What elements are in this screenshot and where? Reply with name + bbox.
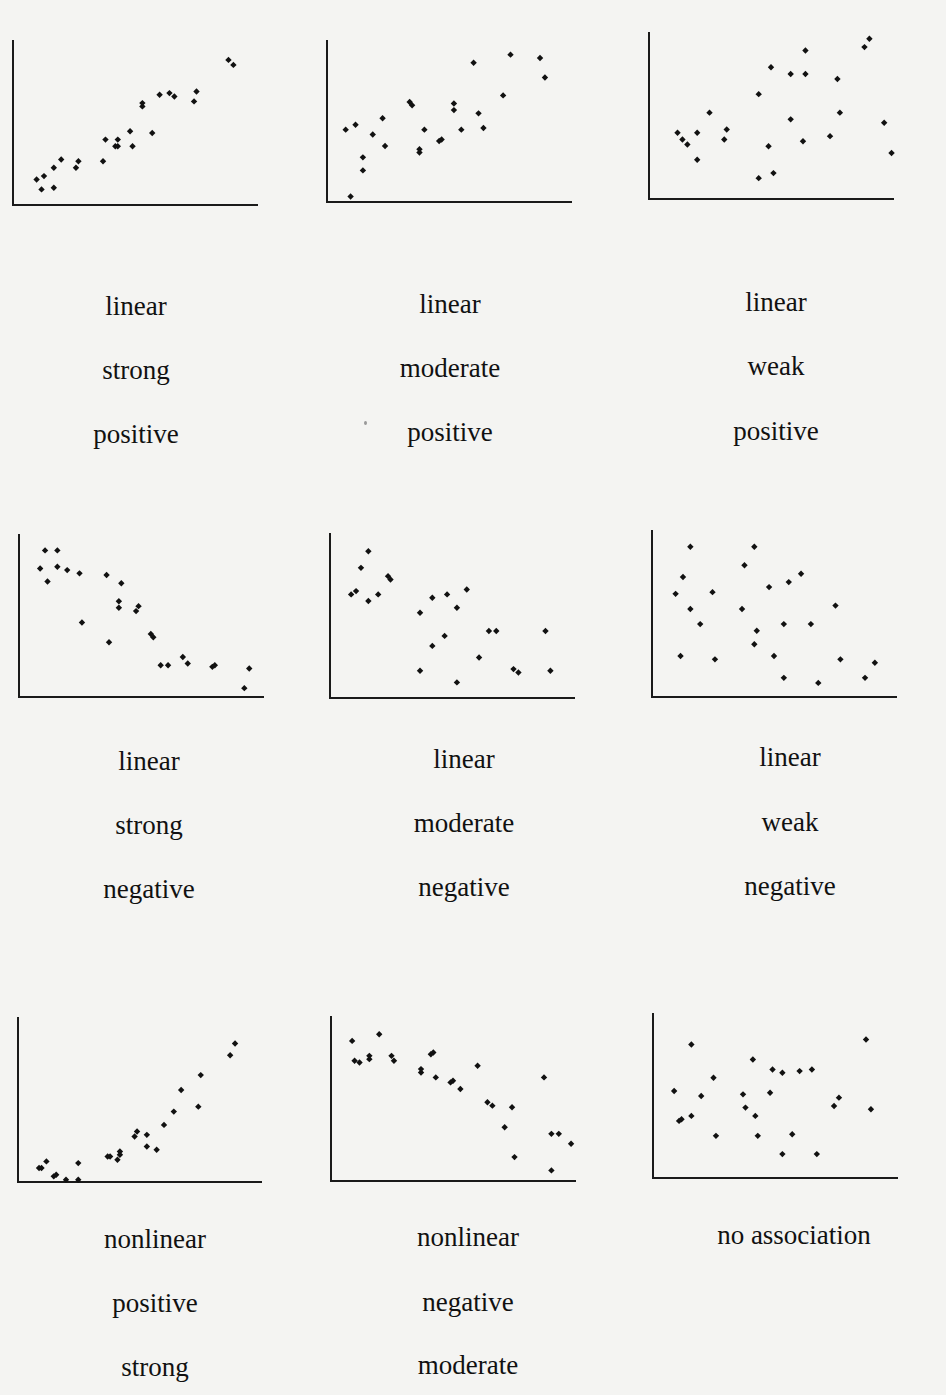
data-point xyxy=(51,165,57,171)
data-point xyxy=(671,1088,677,1094)
plot-label-strength: strong xyxy=(19,812,279,839)
data-point xyxy=(76,570,82,576)
data-point xyxy=(489,1102,495,1108)
data-point xyxy=(861,44,867,50)
data-point xyxy=(798,570,804,576)
scatter-svg xyxy=(648,32,894,200)
data-point xyxy=(41,173,47,179)
data-point xyxy=(800,138,806,144)
data-point xyxy=(129,143,135,149)
scatterplot-linear-weak-negative xyxy=(651,530,897,698)
scatterplot-linear-moderate-negative xyxy=(329,533,575,699)
data-point xyxy=(509,1104,515,1110)
data-point xyxy=(191,98,197,104)
data-point xyxy=(100,158,106,164)
data-point xyxy=(697,621,703,627)
scatterplot-linear-strong-positive xyxy=(12,40,258,206)
plot-label-form: linear xyxy=(334,746,594,773)
data-point xyxy=(866,36,872,42)
scatter-svg xyxy=(330,1016,576,1182)
data-point xyxy=(166,90,172,96)
data-point xyxy=(781,675,787,681)
data-point xyxy=(476,654,482,660)
data-point xyxy=(139,100,145,106)
data-point xyxy=(246,665,252,671)
data-point xyxy=(360,154,366,160)
data-point xyxy=(834,76,840,82)
data-point xyxy=(73,165,79,171)
plot-label-strength: weak xyxy=(660,809,920,836)
data-point xyxy=(548,1167,554,1173)
data-point xyxy=(752,1113,758,1119)
plot-label-direction: negative xyxy=(19,876,279,903)
plot-label-strength: weak xyxy=(646,353,906,380)
data-point xyxy=(863,1036,869,1042)
plot-label-form: linear xyxy=(320,291,580,318)
data-point xyxy=(379,115,385,121)
data-point xyxy=(33,176,39,182)
data-point xyxy=(153,1147,159,1153)
plot-label-strength: strong xyxy=(6,357,266,384)
data-point xyxy=(161,1122,167,1128)
data-point xyxy=(178,1087,184,1093)
data-point xyxy=(64,567,70,573)
data-point xyxy=(687,544,693,550)
data-point xyxy=(510,666,516,672)
data-point xyxy=(75,1160,81,1166)
data-point xyxy=(156,92,162,98)
data-point xyxy=(796,1068,802,1074)
data-point xyxy=(484,1099,490,1105)
data-point xyxy=(116,598,122,604)
data-point xyxy=(750,1056,756,1062)
data-point xyxy=(836,1094,842,1100)
data-point xyxy=(230,62,236,68)
scatter-svg xyxy=(652,1013,898,1179)
data-point xyxy=(868,1106,874,1112)
data-point xyxy=(457,1086,463,1092)
data-point xyxy=(464,586,470,592)
data-point xyxy=(537,55,543,61)
data-point xyxy=(862,675,868,681)
data-point xyxy=(79,619,85,625)
data-point xyxy=(710,1075,716,1081)
data-point xyxy=(542,74,548,80)
data-point xyxy=(195,1103,201,1109)
scatterplot-nonlinear-negative-moderate xyxy=(330,1016,576,1182)
data-point xyxy=(709,589,715,595)
plot-label-form: linear xyxy=(19,748,279,775)
data-point xyxy=(54,547,60,553)
data-point xyxy=(515,669,521,675)
data-point xyxy=(458,126,464,132)
data-point xyxy=(347,193,353,199)
data-point xyxy=(451,100,457,106)
data-point xyxy=(348,591,354,597)
data-point xyxy=(75,158,81,164)
data-point xyxy=(888,150,894,156)
plot-label-direction: positive xyxy=(646,418,906,445)
data-point xyxy=(808,621,814,627)
data-point xyxy=(38,186,44,192)
data-point xyxy=(106,639,112,645)
plot-label-form: nonlinear xyxy=(25,1226,285,1253)
data-point xyxy=(149,130,155,136)
data-point xyxy=(541,1074,547,1080)
plot-label-direction: positive xyxy=(320,419,580,446)
scatterplot-nonlinear-positive-strong xyxy=(17,1017,262,1183)
data-point xyxy=(351,1058,357,1064)
data-point xyxy=(198,1072,204,1078)
data-point xyxy=(165,662,171,668)
data-point xyxy=(771,653,777,659)
data-point xyxy=(352,122,358,128)
axes xyxy=(13,40,258,205)
data-point xyxy=(740,1091,746,1097)
data-point xyxy=(687,606,693,612)
data-point xyxy=(454,605,460,611)
plot-label-form: linear xyxy=(6,293,266,320)
data-point xyxy=(180,654,186,660)
data-point xyxy=(429,643,435,649)
data-point xyxy=(475,110,481,116)
axes xyxy=(331,1016,576,1181)
data-point xyxy=(779,1151,785,1157)
data-point xyxy=(127,128,133,134)
data-point xyxy=(809,1066,815,1072)
